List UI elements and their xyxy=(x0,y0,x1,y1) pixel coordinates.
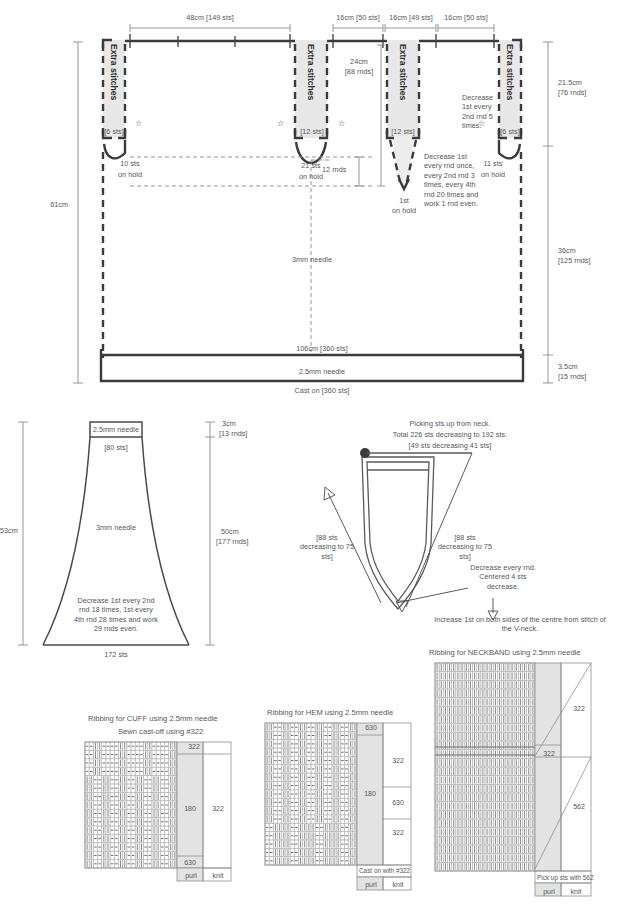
cuff-ribbing-chart: Ribbing for CUFF using 2.5mm needle Sewn… xyxy=(80,710,250,900)
dim-label-36cm: 36cm xyxy=(558,246,576,255)
dim-label-16cm-c: 16cm [50 sts] xyxy=(426,13,506,22)
sleeve-dim-177rnds: [177 rnds] xyxy=(216,537,248,546)
panel-sts-1: [6 sts] xyxy=(95,127,133,136)
extra-stitches-label-3: Extra stitches xyxy=(398,44,408,100)
neckband-legend-knit-label: knit xyxy=(564,888,588,895)
decrease-callout-line xyxy=(396,588,468,603)
neckband-purl-col xyxy=(535,663,561,871)
neck-curve-1 xyxy=(104,140,125,158)
hem-knit-col xyxy=(383,723,411,865)
neckband-label-upper-right: 322 xyxy=(568,705,590,712)
sleeve-dim-3cm: 3cm xyxy=(222,419,236,428)
dim-label-15rnds: [15 rnds] xyxy=(558,372,586,381)
vneck-title-3: [49 sts decreasing 41 sts] xyxy=(325,441,575,450)
sleeve-dim-53cm-label: 53cm xyxy=(0,526,17,535)
neckband-chart-title: Ribbing for NECKBAND using 2.5mm needle xyxy=(429,648,581,657)
vneck-decrease-note: Decrease every rnd. Centered 4 sts decre… xyxy=(467,563,539,591)
dim-sleeve-right xyxy=(205,422,215,645)
sleeve-cuff-needle: 2.5mm needle xyxy=(92,425,140,434)
vneck-schematic: Picking sts up from neck. Total 226 sts … xyxy=(290,405,617,655)
sleeve-dim-13rnds: [13 rnds] xyxy=(219,429,247,438)
decrease-note-right: Decrease 1st every 2nd rnd 5 times. xyxy=(462,93,502,131)
neck-curve-4 xyxy=(499,140,520,158)
sleeve-bottom-sts: 172 sts xyxy=(86,650,146,659)
body-needle-3mm: 3mm needle xyxy=(262,255,362,264)
dim-16cm-c xyxy=(438,24,494,32)
rnds-12-label: 12 rnds xyxy=(322,165,346,174)
hem-label-right-lower: 322 xyxy=(387,829,409,836)
hem-ribbing-chart: Ribbing for HEM using 2.5mm needle 630 3… xyxy=(265,705,435,900)
sleeve-cuff-sts: [80 sts] xyxy=(92,443,140,452)
hem-label-cast-on: Cast on with #322 xyxy=(359,867,410,874)
cuff-chart-title-2: Sewn cast-off using #322 xyxy=(118,727,203,736)
body-cast-on: Cast on [360 sts] xyxy=(262,386,382,395)
sleeve-decrease-note: Decrease 1st every 2nd rnd 18 times, 1st… xyxy=(73,596,159,634)
star-icon-3: ☆ xyxy=(338,119,345,128)
pattern-schematic-page: 48cm [149 sts] 16cm [50 sts] 16cm [49 st… xyxy=(0,0,617,907)
dim-right-stack xyxy=(543,42,553,383)
dim-53cm xyxy=(18,422,28,645)
panel-sts-3: [12 sts] xyxy=(383,127,423,136)
hold-label-1b: on hold xyxy=(108,170,152,179)
cuff-label-bottom-left: 630 xyxy=(180,859,200,866)
hem-label-right-upper: 322 xyxy=(387,757,409,764)
dim-label-76rnds: [76 rnds] xyxy=(558,88,586,97)
hem-chart-title: Ribbing for HEM using 2.5mm needle xyxy=(267,708,393,717)
hem-chart-grid xyxy=(265,721,435,891)
cuff-label-top: 322 xyxy=(184,743,204,750)
neckband-label-pick-up: Pick up sts with 562 xyxy=(537,874,593,881)
hem-legend-purl-label: purl xyxy=(360,881,382,888)
neckband-chart-grid xyxy=(425,661,617,896)
dim-12rnds xyxy=(355,157,363,186)
body-bottom-width: 106cm [360 sts] xyxy=(262,344,382,353)
neckband-knit-col xyxy=(561,663,591,871)
extra-stitches-label-4: Extra stitches xyxy=(505,44,515,100)
neckband-ribbing-chart: Ribbing for NECKBAND using 2.5mm needle … xyxy=(425,645,617,900)
extra-stitches-label-1: Extra stitches xyxy=(109,44,119,100)
dim-label-48cm: 48cm [149 sts] xyxy=(160,13,260,22)
vneck-title-1: Picking sts up from neck. xyxy=(325,419,575,428)
neckband-label-lower-right: 562 xyxy=(568,803,590,810)
vneck-left-arrow xyxy=(324,487,335,500)
neckband-label-mid-left: 322 xyxy=(538,750,560,757)
hold-label-3a: 1st xyxy=(385,196,423,205)
cuff-legend-knit-label: knit xyxy=(206,872,230,879)
armhole-depth-rnds: [88 rnds] xyxy=(336,67,382,76)
cuff-label-mid-right: 322 xyxy=(207,805,229,812)
hold-label-1a: 10 sts xyxy=(110,159,150,168)
hold-label-3b: on hold xyxy=(381,206,427,215)
cuff-legend-purl-label: purl xyxy=(180,872,202,879)
vneck-increase-note: Increase 1st on both sides of the centre… xyxy=(430,615,610,634)
dim-label-125rnds: [125 rnds] xyxy=(558,256,590,265)
dim-label-215cm: 21.5cm xyxy=(558,78,582,87)
vneck-title-2: Total 226 sts decreasing to 192 sts. xyxy=(325,430,575,439)
hem-label-right-mid: 630 xyxy=(387,799,409,806)
dim-label-61cm: 61cm xyxy=(10,200,68,209)
decrease-note-vneck: Decrease 1st every rnd once, every 2nd r… xyxy=(424,152,484,208)
dim-61cm xyxy=(73,42,83,383)
sleeve-body-needle: 3mm needle xyxy=(86,523,146,532)
body-schematic: 48cm [149 sts] 16cm [50 sts] 16cm [49 st… xyxy=(0,0,617,400)
hem-label-mid-left: 180 xyxy=(360,790,380,797)
sleeve-dim-50cm: 50cm xyxy=(221,527,239,536)
vneck-right-guide xyxy=(406,453,472,607)
body-needle-25mm: 2.5mm needle xyxy=(262,367,382,376)
dim-48cm xyxy=(130,24,290,32)
sleeve-schematic: 2.5mm needle [80 sts] 3mm needle 53cm 3c… xyxy=(0,400,290,670)
neckband-legend-purl-label: purl xyxy=(538,888,560,895)
vneck-left-note: [88 sts decreasing to 75 sts] xyxy=(300,533,354,561)
vneck-shade xyxy=(392,136,414,188)
cuff-label-mid-left: 180 xyxy=(180,805,200,812)
armhole-depth-cm: 24cm xyxy=(340,57,378,66)
vneck-right-note: [88 sts decreasing to 75 sts] xyxy=(438,533,492,561)
hem-label-top-left: 630 xyxy=(361,724,381,731)
extra-stitches-label-2: Extra stitches xyxy=(306,44,316,100)
dim-16cm-a xyxy=(333,24,383,32)
star-icon-1: ☆ xyxy=(135,119,142,128)
dim-label-35cm: 3.5cm xyxy=(558,362,578,371)
star-icon-2: ☆ xyxy=(277,119,284,128)
hem-legend-knit-label: knit xyxy=(386,881,410,888)
cuff-chart-title-1: Ribbing for CUFF using 2.5mm needle xyxy=(88,714,218,723)
panel-sts-2: [12 sts] xyxy=(292,127,332,136)
dim-16cm-b xyxy=(385,24,436,32)
